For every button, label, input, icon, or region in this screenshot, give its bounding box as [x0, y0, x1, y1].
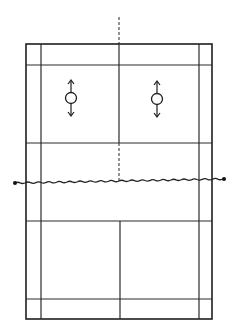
court-svg [0, 0, 234, 330]
player-marker-icon [66, 93, 77, 104]
net-post-right [222, 177, 226, 181]
player-right [152, 81, 163, 117]
player-marker-icon [152, 94, 163, 105]
net-post-left [13, 181, 17, 185]
player-left [66, 80, 77, 116]
badminton-court-diagram [0, 0, 234, 330]
